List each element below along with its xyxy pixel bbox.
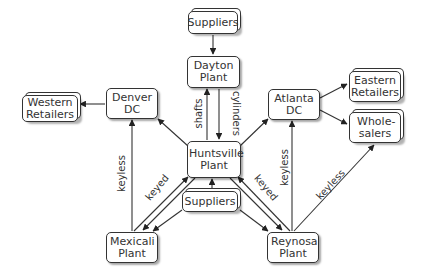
edge-label-keyless-mexicali: keyless [116, 155, 127, 192]
node-label: Mexicali Plant [110, 236, 154, 260]
atlanta-dc-node: Atlanta DC [268, 89, 320, 120]
node-label: Western Retailers [25, 97, 75, 121]
node-label: Suppliers [187, 17, 238, 29]
edge-label-cylinders: cylinders [231, 91, 242, 136]
node-label: Dayton Plant [194, 60, 234, 84]
huntsville-plant-node: Huntsville Plant [187, 141, 241, 178]
eastern-retailers-node: Eastern Retailers [349, 71, 401, 102]
wholesalers-node: Whole-salers [349, 112, 401, 143]
western-retailers-node: Western Retailers [22, 95, 78, 122]
node-label: Suppliers [184, 196, 235, 208]
node-label: Reynosa Plant [271, 236, 315, 260]
reynosa-plant-node: Reynosa Plant [267, 232, 319, 263]
node-label: Huntsville Plant [189, 148, 239, 172]
mexicali-plant-node: Mexicali Plant [106, 232, 158, 263]
dayton-plant-node: Dayton Plant [187, 56, 240, 88]
suppliers-top-node: Suppliers [188, 11, 238, 34]
node-label: Atlanta DC [273, 93, 315, 117]
node-label: Whole-salers [357, 116, 393, 140]
node-label: Denver DC [112, 92, 152, 116]
node-label: Eastern Retailers [351, 75, 399, 99]
edge-label-keyless-reynosa: keyless [279, 149, 290, 186]
edge-label-shafts: shafts [193, 98, 204, 128]
denver-dc-node: Denver DC [106, 88, 158, 119]
suppliers-bottom-node: Suppliers [182, 191, 238, 212]
